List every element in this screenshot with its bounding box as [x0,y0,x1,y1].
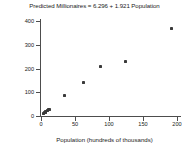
x-axis-title: Population (hundreds of thousands) [20,136,189,144]
y-tick-label: 400 [14,18,34,24]
scatter-chart: Predicted Millionaires = 6.296 + 1.921 P… [0,0,189,155]
data-point [82,81,85,84]
x-tick-label: 150 [132,121,154,128]
y-tick-label: 300 [14,42,34,48]
y-tick-label: 0 [14,113,34,119]
data-point [63,94,66,97]
y-tick-mark [36,116,40,117]
y-tick-label: 100 [14,89,34,95]
data-point [170,27,173,30]
x-tick-label: 0 [30,121,52,128]
x-tick-label: 100 [98,121,120,128]
y-tick-label: 200 [14,66,34,72]
data-point [124,60,127,63]
y-tick-mark [36,92,40,93]
data-point [99,65,102,68]
chart-title: Predicted Millionaires = 6.296 + 1.921 P… [0,2,189,10]
plot-area [41,21,177,116]
x-tick-label: 200 [166,121,188,128]
x-tick-label: 50 [64,121,86,128]
y-tick-mark [36,69,40,70]
y-tick-mark [36,45,40,46]
data-point [48,108,51,111]
x-axis-line [40,116,181,117]
y-tick-mark [36,21,40,22]
